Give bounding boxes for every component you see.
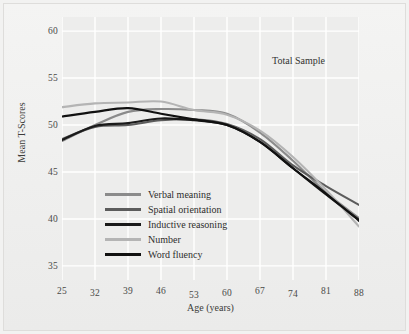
legend-label-word-fluency: Word fluency (148, 250, 202, 260)
x-tick-label-88: 88 (354, 288, 364, 298)
y-tick-label-40: 40 (48, 214, 58, 224)
legend-item-number[interactable]: Number (105, 233, 227, 246)
x-tick-label-32: 32 (90, 288, 100, 298)
legend-swatch-inductive-reasoning (105, 223, 141, 226)
y-axis-tick-labels: 354045505560 (24, 17, 58, 280)
legend-item-inductive-reasoning[interactable]: Inductive reasoning (105, 218, 227, 231)
figure-container: 354045505560 25323946536067748188 Age (y… (0, 0, 409, 334)
y-tick-label-45: 45 (48, 167, 58, 177)
y-tick-label-35: 35 (48, 261, 58, 271)
legend-label-inductive-reasoning: Inductive reasoning (148, 220, 227, 230)
x-tick-label-81: 81 (321, 286, 331, 296)
legend-item-spatial-orientation[interactable]: Spatial orientation (105, 203, 227, 216)
legend-item-verbal-meaning[interactable]: Verbal meaning (105, 188, 227, 201)
x-axis-tick-labels: 25323946536067748188 (62, 286, 359, 300)
x-axis-title: Age (years) (62, 302, 359, 313)
legend-swatch-spatial-orientation (105, 208, 141, 211)
x-tick-label-53: 53 (189, 290, 199, 300)
y-tick-label-60: 60 (48, 26, 58, 36)
x-tick-label-46: 46 (156, 286, 166, 296)
x-tick-label-60: 60 (222, 288, 232, 298)
x-tick-label-67: 67 (255, 286, 265, 296)
y-axis-title: Mean T-Scores (16, 73, 27, 193)
x-tick-label-74: 74 (288, 289, 298, 299)
y-tick-label-55: 55 (48, 73, 58, 83)
legend-label-verbal-meaning: Verbal meaning (148, 190, 211, 200)
legend-swatch-number (105, 238, 141, 241)
legend: Verbal meaningSpatial orientationInducti… (105, 188, 227, 261)
y-tick-label-50: 50 (48, 120, 58, 130)
annotation-total-sample: Total Sample (272, 55, 325, 66)
legend-swatch-verbal-meaning (105, 193, 141, 196)
legend-item-word-fluency[interactable]: Word fluency (105, 248, 227, 261)
x-tick-label-39: 39 (123, 286, 133, 296)
legend-swatch-word-fluency (105, 253, 141, 256)
legend-label-spatial-orientation: Spatial orientation (148, 205, 222, 215)
x-tick-label-25: 25 (57, 286, 67, 296)
legend-label-number: Number (148, 235, 181, 245)
